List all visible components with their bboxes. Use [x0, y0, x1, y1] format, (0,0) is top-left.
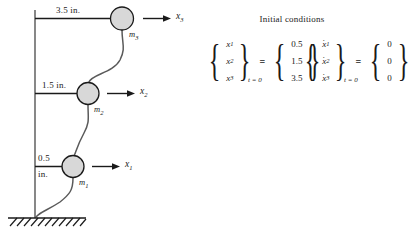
brace-open-velocity: { — [305, 39, 317, 83]
dimension-label-bottom-value: 0.5 — [38, 154, 50, 163]
dot-accent-2: · — [322, 53, 325, 62]
mass-m3 — [111, 7, 134, 30]
equals-sign-velocity: = — [352, 56, 366, 67]
velocity-value-vector: 0 0 0 — [386, 37, 393, 86]
brace-close-velocity-values: } — [398, 39, 410, 83]
coordinate-label-x1-subscript: 1 — [129, 164, 132, 171]
equals-sign-displacement: = — [256, 56, 270, 67]
dot-accent-1: · — [322, 36, 325, 45]
mass-m1 — [62, 156, 84, 178]
time-subscript-displacement: t = 0 — [248, 76, 262, 84]
velocity-value-row-3: 0 — [387, 71, 392, 86]
initial-conditions-title: Initial conditions — [196, 14, 388, 24]
brace-open-displacement: { — [209, 39, 221, 83]
dot-accent-3: · — [322, 70, 325, 79]
mass-label-m2: m2 — [94, 105, 103, 116]
dimension-label-bottom-unit: in. — [38, 170, 48, 179]
displacement-var-row-3: x3 — [226, 71, 233, 86]
velocity-initial-condition-equation: { ·x1 ·x2 ·x3 } t = 0 = { 0 0 0 } — [300, 30, 412, 92]
velocity-variable-vector: ·x1 ·x2 ·x3 — [321, 37, 330, 86]
displacement-var-row-1: x1 — [226, 37, 233, 52]
mass-m2 — [77, 83, 99, 105]
mass-label-m2-subscript: 2 — [100, 109, 103, 116]
coordinate-label-x3: x3 — [176, 12, 183, 23]
velocity-value-row-2: 0 — [387, 54, 392, 69]
mass-label-m1: m1 — [79, 178, 88, 189]
coordinate-arrowhead-x3 — [163, 15, 171, 22]
coordinate-label-x2: x2 — [140, 87, 147, 98]
dimension-label-middle: 1.5 in. — [42, 81, 66, 90]
coordinate-arrowhead-x2 — [127, 90, 135, 97]
dimension-label-top: 3.5 in. — [56, 6, 80, 15]
brace-open-displacement-values: { — [274, 39, 286, 83]
brace-open-velocity-values: { — [370, 39, 382, 83]
coordinate-label-x3-subscript: 3 — [180, 16, 183, 23]
mass-label-m3-subscript: 3 — [135, 34, 138, 41]
displacement-variable-vector: x1 x2 x3 — [225, 37, 234, 86]
velocity-var-row-1: ·x1 — [322, 37, 329, 52]
velocity-var-row-2: ·x2 — [322, 54, 329, 69]
displacement-var-row-2: x2 — [226, 54, 233, 69]
mass-label-m1-subscript: 1 — [85, 182, 88, 189]
initial-conditions-block: Initial conditions { x1 x2 x3 } t = 0 = … — [196, 14, 388, 100]
ground-hatching — [10, 218, 86, 226]
coordinate-label-x2-subscript: 2 — [144, 91, 147, 98]
coordinate-arrowhead-x1 — [112, 163, 120, 170]
velocity-value-row-1: 0 — [387, 37, 392, 52]
time-subscript-velocity: t = 0 — [344, 76, 358, 84]
velocity-var-row-3: ·x3 — [322, 71, 329, 86]
coordinate-label-x1: x1 — [125, 160, 132, 171]
mass-label-m3: m3 — [129, 30, 138, 41]
